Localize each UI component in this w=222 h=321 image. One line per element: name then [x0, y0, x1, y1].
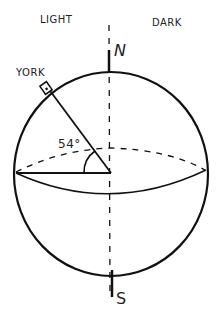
globe-outline: [14, 72, 208, 276]
north-label: N: [114, 41, 126, 60]
equator-back: [16, 148, 205, 172]
york-label: YORK: [16, 67, 45, 78]
light-label: LIGHT: [40, 14, 72, 25]
south-label: S: [116, 289, 127, 308]
angle-label: 54°: [58, 137, 81, 151]
york-radius: [48, 88, 111, 173]
angle-arc: [84, 151, 95, 173]
globe-diagram: [0, 0, 222, 321]
dark-label: DARK: [152, 17, 182, 28]
